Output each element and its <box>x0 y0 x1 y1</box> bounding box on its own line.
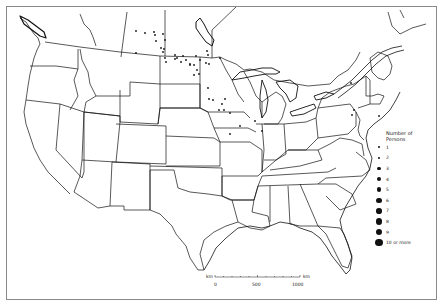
data-point <box>212 99 214 101</box>
data-point <box>208 98 210 100</box>
data-point <box>218 109 220 111</box>
data-point <box>155 40 157 42</box>
legend-item: 8 <box>372 216 438 227</box>
data-point <box>239 125 241 127</box>
lake-erie <box>290 104 316 116</box>
legend-dot-icon <box>372 157 386 160</box>
data-point <box>154 34 156 36</box>
data-point <box>229 133 231 135</box>
data-point <box>221 103 223 105</box>
legend-item: 5 <box>372 184 438 195</box>
scale-unit-left: km <box>206 274 213 279</box>
data-point <box>163 48 165 50</box>
data-point <box>180 61 182 63</box>
legend-item: 10 or more <box>372 237 438 248</box>
legend-label: 10 or more <box>386 240 411 245</box>
legend-dot-icon <box>372 198 386 203</box>
legend-item: 3 <box>372 163 438 174</box>
legend-item: 7 <box>372 206 438 217</box>
legend-dot-icon <box>372 187 386 192</box>
legend-items: 12345678910 or more <box>372 142 438 248</box>
legend-item: 6 <box>372 195 438 206</box>
legend-label: 3 <box>386 166 389 171</box>
legend-item: 1 <box>372 142 438 153</box>
data-point <box>196 69 198 71</box>
data-point <box>198 73 200 75</box>
gulf-coast <box>204 92 400 274</box>
data-point <box>135 30 137 32</box>
legend-dot-icon <box>372 239 386 246</box>
legend-label: 4 <box>386 177 389 182</box>
data-point <box>153 31 155 33</box>
legend-label: 8 <box>386 219 389 224</box>
lake-winnipeg <box>196 18 214 46</box>
scale-bar <box>215 275 300 277</box>
data-point <box>207 54 209 56</box>
legend-dot-icon <box>372 208 386 214</box>
data-point <box>174 54 176 56</box>
legend-dot-icon <box>372 167 386 170</box>
data-point <box>176 57 178 59</box>
legend-label: 5 <box>386 187 389 192</box>
lake-huron <box>276 80 298 102</box>
data-point <box>182 55 184 57</box>
data-point <box>199 59 201 61</box>
lake-michigan <box>260 80 268 118</box>
legend-dot-icon <box>372 177 386 181</box>
lake-ontario <box>314 92 334 100</box>
data-point <box>254 120 256 122</box>
data-point <box>351 114 353 116</box>
data-point <box>219 57 221 59</box>
data-point <box>208 63 210 65</box>
data-point <box>164 39 166 41</box>
data-point <box>205 62 207 64</box>
data-point <box>195 55 197 57</box>
scale-tick-500: 500 <box>252 282 261 287</box>
data-point <box>135 52 137 54</box>
legend-label: 9 <box>386 230 389 235</box>
legend-dot-icon <box>372 146 386 148</box>
data-point <box>229 112 231 114</box>
data-point <box>353 109 355 111</box>
legend-dot-icon <box>372 218 386 224</box>
data-point <box>189 64 191 66</box>
scale-tick-0: 0 <box>214 282 217 287</box>
data-point <box>350 82 352 84</box>
data-points <box>135 30 380 135</box>
canada-border <box>45 42 360 86</box>
legend-dot-icon <box>372 229 386 236</box>
legend-item: 9 <box>372 227 438 238</box>
data-point <box>185 59 187 61</box>
data-point <box>160 47 162 49</box>
lake-superior <box>232 68 280 80</box>
data-point <box>193 74 195 76</box>
legend-label: 6 <box>386 198 389 203</box>
data-point <box>223 109 225 111</box>
data-point <box>162 51 164 53</box>
data-point <box>144 32 146 34</box>
legend-item: 2 <box>372 153 438 164</box>
data-point <box>165 61 167 63</box>
scale-tick-1000: 1000 <box>292 282 303 287</box>
data-point <box>193 64 195 66</box>
data-point <box>261 130 263 132</box>
data-point <box>207 87 209 89</box>
data-point <box>174 58 176 60</box>
legend-item: 4 <box>372 174 438 185</box>
data-point <box>206 50 208 52</box>
legend-label: 2 <box>386 155 389 160</box>
scale-unit-right: km <box>303 274 310 279</box>
legend-label: 7 <box>386 208 389 213</box>
legend: Number of Persons 12345678910 or more <box>372 130 438 248</box>
data-point <box>162 33 164 35</box>
data-point <box>224 98 226 100</box>
data-point <box>164 57 166 59</box>
legend-label: 1 <box>386 145 389 150</box>
data-point <box>378 115 380 117</box>
